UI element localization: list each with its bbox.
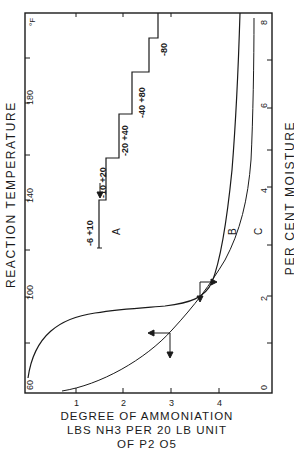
svg-text:2: 2	[121, 398, 126, 408]
x-axis-title-line1: DEGREE OF AMMONIATION	[0, 410, 294, 422]
svg-text:1: 1	[74, 398, 79, 408]
svg-text:B: B	[227, 228, 238, 235]
svg-text:-40 +80: -40 +80	[137, 87, 147, 118]
step-labels: -6 +10 -10 +20 -20 +40 -40 +80 -80	[85, 43, 169, 246]
x-axis-ticks	[76, 388, 219, 393]
svg-text:2: 2	[259, 296, 269, 301]
svg-text:-10 +20: -10 +20	[98, 167, 108, 198]
curve-c-moisture	[62, 18, 254, 391]
x-axis-tick-labels: 1 2 3 4	[74, 398, 222, 408]
svg-text:8: 8	[259, 20, 269, 25]
x-axis-title-line3: OF P2 O5	[0, 438, 294, 450]
curve-letters: A B C	[111, 228, 264, 235]
svg-text:4: 4	[217, 398, 222, 408]
svg-text:-6 +10: -6 +10	[85, 220, 95, 246]
y-right-tick-labels: 0 2 4 6 8	[259, 20, 269, 390]
svg-text:0: 0	[259, 385, 269, 390]
x-axis-title-line2: LBS NH3 PER 20 LB UNIT	[0, 424, 294, 436]
svg-text:60: 60	[25, 380, 35, 390]
svg-text:-80: -80	[159, 43, 169, 56]
y-left-tick-labels: 60 100 140 180 °F	[25, 18, 37, 390]
curve-b-temperature	[28, 13, 240, 378]
svg-text:180: 180	[25, 90, 35, 105]
svg-text:-20 +40: -20 +40	[120, 125, 130, 156]
svg-text:C: C	[253, 228, 264, 235]
svg-text:6: 6	[259, 103, 269, 108]
arrow-markers	[97, 183, 217, 358]
y-left-axis-title: REACTION TEMPERATURE	[4, 108, 18, 288]
y-right-axis-title: PER CENT MOISTURE	[283, 108, 294, 288]
svg-text:3: 3	[169, 398, 174, 408]
chart-svg: 1 2 3 4 60 100 140 180 °F	[0, 0, 294, 456]
svg-text:100: 100	[25, 285, 35, 300]
svg-text:4: 4	[259, 188, 269, 193]
chart: 1 2 3 4 60 100 140 180 °F	[0, 0, 294, 456]
svg-text:°F: °F	[28, 18, 37, 26]
svg-text:A: A	[111, 228, 122, 235]
svg-text:140: 140	[25, 188, 35, 203]
